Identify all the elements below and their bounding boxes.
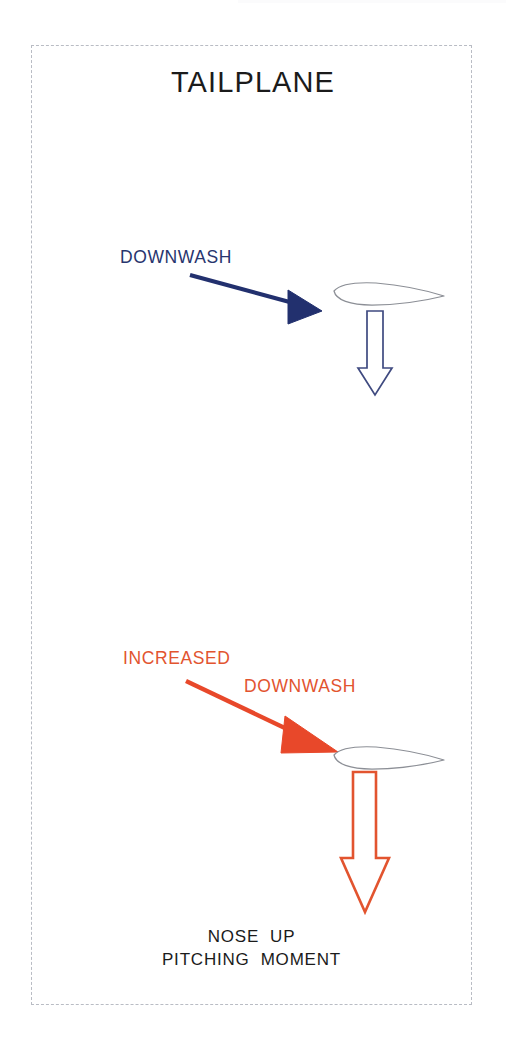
label-downwash-increased: DOWNWASH [244, 676, 356, 697]
caption-pitching-moment: PITCHING MOMENT [31, 950, 472, 970]
caption-nose-up: NOSE UP [31, 927, 472, 947]
page-title: TAILPLANE [0, 66, 506, 99]
diagram-canvas: TAILPLANE DOWNWASH INCREASED DOWNWASH NO… [0, 0, 506, 1044]
top-edge-artifact [238, 0, 506, 3]
diagram-dashed-frame [31, 45, 472, 1005]
label-downwash-normal: DOWNWASH [120, 247, 232, 268]
label-increased: INCREASED [123, 648, 231, 669]
